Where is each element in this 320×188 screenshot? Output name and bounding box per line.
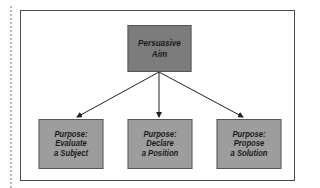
propose-solution-node: Purpose: Propose a Solution xyxy=(217,119,282,169)
declare-position-node: Purpose: Declare a Position xyxy=(128,119,193,169)
node-label-line: a Subject xyxy=(54,149,88,159)
node-label-line: Aim xyxy=(138,49,181,60)
arrow-to-propose xyxy=(159,72,243,117)
arrow-to-evaluate xyxy=(77,72,159,117)
node-label-line: a Position xyxy=(142,149,179,159)
node-label-line: a Solution xyxy=(231,149,268,159)
persuasive-aim-node: Persuasive Aim xyxy=(128,25,192,72)
node-label-line: Persuasive xyxy=(138,38,181,49)
evaluate-subject-node: Purpose: Evaluate a Subject xyxy=(39,119,104,169)
